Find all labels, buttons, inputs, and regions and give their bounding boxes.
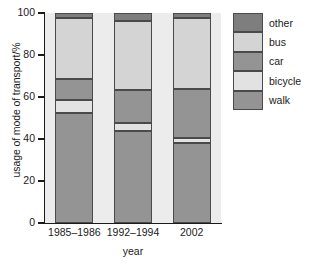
y-axis-tick-label: 80 [0,48,35,60]
bar-segment-bus [114,21,152,89]
bar-segment-car [114,90,152,124]
bar-segment-car [173,89,211,138]
x-axis-label: year [45,245,221,257]
legend: otherbuscarbicyclewalk [233,13,263,110]
legend-label-other: other [269,17,293,29]
legend-label-bus: bus [269,36,286,48]
y-axis-tick-label: 100 [0,6,35,18]
legend-swatch-other [233,13,263,32]
bar-segment-other [114,13,152,21]
bar-segment-other [55,13,93,18]
bar-segment-bicycle [55,100,93,113]
legend-swatch-bus [233,32,263,51]
y-axis-tick-label: 20 [0,174,35,186]
legend-label-car: car [269,55,284,67]
y-axis-tick [38,180,44,181]
bar-2002 [173,13,211,223]
legend-swatch-car [233,52,263,71]
x-axis-tick-label: 2002 [144,226,240,238]
bar-segment-bicycle [114,123,152,130]
bar-1992–1994 [114,13,152,223]
y-axis-tick [38,138,44,139]
y-axis-tick-label: 40 [0,132,35,144]
y-axis-tick [38,12,44,13]
legend-swatch-walk [233,91,263,110]
bar-segment-car [55,79,93,100]
bar-1985–1986 [55,13,93,223]
bar-segment-walk [114,131,152,223]
chart-figure: usage of mode of transport/% 02040608010… [0,0,314,269]
bar-segment-walk [55,113,93,223]
y-axis-label: usage of mode of transport/% [10,20,22,200]
bar-segment-other [173,13,211,18]
y-axis-tick-label: 60 [0,90,35,102]
y-axis-tick [38,222,44,223]
legend-label-walk: walk [269,94,290,106]
x-axis-line [44,223,222,224]
bar-segment-bicycle [173,138,211,143]
legend-swatch-bicycle [233,71,263,90]
y-axis-tick [38,96,44,97]
bar-segment-bus [173,18,211,88]
y-axis-line [44,12,45,224]
y-axis-tick [38,54,44,55]
bar-segment-bus [55,18,93,79]
bar-segment-walk [173,143,211,223]
legend-label-bicycle: bicycle [269,75,301,87]
